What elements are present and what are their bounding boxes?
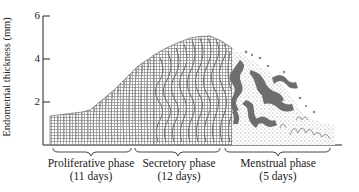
brace-proliferative xyxy=(53,148,131,156)
brace-menstrual xyxy=(225,148,330,156)
proliferative-region xyxy=(50,55,154,145)
phase-duration: (5 days) xyxy=(218,170,338,183)
phase-label-menstrual: Menstrual phase (5 days) xyxy=(218,157,338,183)
brace-secretory xyxy=(135,148,220,156)
endometrium-tissue xyxy=(50,36,335,145)
phase-braces xyxy=(53,148,330,156)
phase-name: Menstrual phase xyxy=(218,157,338,170)
menstrual-region xyxy=(229,48,335,145)
